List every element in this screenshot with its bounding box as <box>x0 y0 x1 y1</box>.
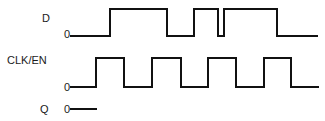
signal-q: Q 0 <box>40 103 97 115</box>
zero-level-label-d: 0 <box>64 28 70 40</box>
signal-label-q: Q <box>40 103 49 115</box>
waveform-canvas: D 0 CLK/EN 0 Q 0 <box>0 0 325 121</box>
signal-label-clk-en: CLK/EN <box>7 54 47 66</box>
waveform-clk-en <box>70 58 319 87</box>
signal-d: D 0 <box>42 9 318 40</box>
signal-clk-en: CLK/EN 0 <box>7 54 319 93</box>
waveform-d <box>70 9 318 36</box>
timing-diagram: D 0 CLK/EN 0 Q 0 <box>0 0 325 121</box>
zero-level-label-q: 0 <box>64 103 70 115</box>
signal-label-d: D <box>42 12 50 24</box>
zero-level-label-clk-en: 0 <box>64 81 70 93</box>
